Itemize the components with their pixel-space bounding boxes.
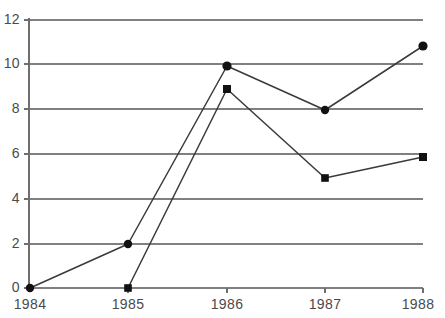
y-tick-label-2: 2 [0, 235, 20, 251]
y-tick-label-4: 4 [0, 190, 20, 206]
datapoint-circle-1987[interactable] [321, 106, 329, 114]
y-tick-label-0: 0 [0, 279, 20, 295]
y-axis-ticks [24, 20, 29, 288]
datapoint-circle-1984[interactable] [26, 284, 34, 292]
x-tick-label-1986: 1986 [199, 296, 255, 312]
series-square-markers [124, 85, 427, 292]
x-axis-ticks [128, 288, 423, 293]
x-tick-label-1985: 1985 [100, 296, 156, 312]
datapoint-square-1987[interactable] [321, 174, 329, 182]
series-square-line [128, 89, 423, 288]
gridlines [29, 20, 423, 288]
series-circle-line [30, 46, 423, 288]
x-tick-label-1988: 1988 [390, 296, 445, 312]
datapoint-square-1988[interactable] [419, 153, 427, 161]
x-tick-label-1987: 1987 [297, 296, 353, 312]
datapoint-square-1985[interactable] [124, 284, 132, 292]
datapoint-square-1986[interactable] [223, 85, 231, 93]
y-tick-label-8: 8 [0, 100, 20, 116]
y-tick-label-12: 12 [0, 11, 20, 27]
y-tick-label-10: 10 [0, 55, 20, 71]
y-tick-label-6: 6 [0, 145, 20, 161]
series-circle-markers [26, 41, 428, 292]
chart-canvas [0, 0, 445, 318]
datapoint-circle-1986[interactable] [222, 61, 231, 70]
line-chart: 12 10 8 6 4 2 0 1984 1985 1986 1987 1988 [0, 0, 445, 318]
x-tick-label-1984: 1984 [2, 296, 58, 312]
datapoint-circle-1988[interactable] [418, 41, 427, 50]
datapoint-circle-1985[interactable] [124, 240, 132, 248]
